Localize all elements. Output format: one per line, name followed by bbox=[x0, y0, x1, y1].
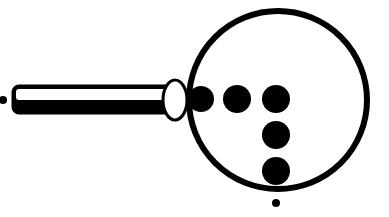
left-dot bbox=[0, 96, 7, 104]
lens-dot bbox=[262, 121, 290, 149]
lens-dot bbox=[262, 157, 290, 185]
lens-dots bbox=[188, 85, 290, 185]
figure-canvas bbox=[0, 0, 389, 217]
magnifier-diagram bbox=[0, 0, 389, 217]
rod-oval-tip bbox=[163, 80, 187, 120]
bottom-dot bbox=[272, 199, 280, 207]
lens-dot bbox=[262, 85, 290, 113]
rod bbox=[13, 86, 173, 113]
lens-dot bbox=[188, 86, 214, 112]
lens-dot bbox=[223, 85, 251, 113]
rod-highlight bbox=[16, 89, 170, 100]
